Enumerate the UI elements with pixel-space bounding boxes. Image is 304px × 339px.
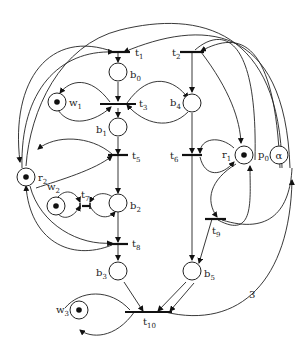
svg-text:t5: t5 — [132, 150, 141, 164]
labels: t1 t2 t3 t5 t6 t7 t8 t9 t10 b0 b1 b2 b3 … — [38, 47, 269, 330]
place-b0 — [109, 63, 127, 81]
svg-text:b5: b5 — [204, 268, 215, 282]
place-b1 — [109, 118, 127, 136]
place-b3 — [109, 262, 127, 280]
svg-text:t8: t8 — [132, 238, 141, 252]
svg-text:b1: b1 — [96, 124, 107, 138]
svg-text:b4: b4 — [170, 97, 181, 111]
svg-text:w2: w2 — [47, 181, 60, 195]
svg-text:r2: r2 — [38, 172, 47, 186]
petri-net-diagram: α t1 t2 t3 t5 t6 t7 t8 t9 t10 b0 b1 b2 b… — [0, 0, 304, 339]
token — [241, 152, 247, 158]
svg-text:w1: w1 — [69, 97, 82, 111]
svg-text:t3: t3 — [139, 98, 148, 112]
place-b4 — [183, 94, 201, 112]
token — [53, 203, 59, 209]
svg-text:p0: p0 — [258, 149, 269, 163]
token — [23, 174, 29, 180]
svg-text:r1: r1 — [222, 149, 231, 163]
svg-text:t7: t7 — [81, 189, 90, 203]
p0-content: α — [276, 150, 283, 161]
svg-text:t2: t2 — [172, 47, 181, 61]
svg-text:b2: b2 — [130, 200, 141, 214]
arc-weight-label: 3 — [249, 289, 255, 300]
svg-text:t6: t6 — [170, 150, 179, 164]
svg-text:t10: t10 — [143, 316, 156, 330]
token — [76, 307, 82, 313]
svg-text:b0: b0 — [130, 69, 141, 83]
svg-text:t9: t9 — [212, 225, 221, 239]
svg-text:t1: t1 — [135, 47, 144, 61]
place-b5 — [183, 262, 201, 280]
svg-text:b3: b3 — [96, 267, 107, 281]
token — [54, 99, 60, 105]
place-b2 — [109, 194, 127, 212]
